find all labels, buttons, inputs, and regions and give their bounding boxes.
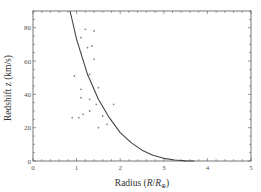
data-point xyxy=(106,123,108,125)
x-tick-label: 1 xyxy=(75,164,79,172)
tick-labels: 012345020406080 xyxy=(24,24,253,172)
data-point xyxy=(80,37,82,39)
x-tick-label: 4 xyxy=(206,164,210,172)
data-point xyxy=(91,45,93,47)
data-point xyxy=(89,110,91,112)
data-point xyxy=(71,117,73,119)
x-axis-title: Radius (R/R⊕) xyxy=(115,178,169,189)
y-tick-label: 60 xyxy=(24,58,32,66)
x-tick-label: 0 xyxy=(31,164,35,172)
data-point xyxy=(113,103,115,105)
data-point xyxy=(87,47,89,49)
data-point xyxy=(80,52,82,54)
data-point xyxy=(89,98,91,100)
data-point xyxy=(78,117,80,119)
axis-ticks xyxy=(33,11,251,161)
data-point xyxy=(80,97,82,99)
x-tick-label: 3 xyxy=(162,164,166,172)
y-axis-title: Redshift z (km/s) xyxy=(3,55,14,121)
data-point xyxy=(74,75,76,77)
y-tick-label: 80 xyxy=(24,24,32,32)
data-point xyxy=(93,30,95,32)
y-tick-label: 0 xyxy=(28,158,32,166)
data-point xyxy=(93,58,95,60)
data-point xyxy=(84,28,86,30)
y-tick-label: 20 xyxy=(24,124,32,132)
data-point xyxy=(80,88,82,90)
data-point xyxy=(102,115,104,117)
data-point xyxy=(89,73,91,75)
scatter-chart: 012345020406080 Redshift z (km/s) Radius… xyxy=(0,0,261,192)
plot-frame xyxy=(33,11,251,161)
data-point xyxy=(82,113,84,115)
x-tick-label: 2 xyxy=(118,164,122,172)
data-point xyxy=(98,87,100,89)
x-tick-label: 5 xyxy=(249,164,253,172)
data-point xyxy=(95,103,97,105)
data-point xyxy=(98,127,100,129)
model-curve xyxy=(70,11,194,161)
y-tick-label: 40 xyxy=(24,91,32,99)
